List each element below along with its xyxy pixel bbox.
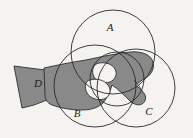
figure-container: A B C D bbox=[0, 0, 193, 138]
hand-venn-diagram: A B C D bbox=[0, 0, 193, 138]
label-b: B bbox=[74, 107, 81, 119]
label-c: C bbox=[145, 105, 153, 117]
label-a: A bbox=[106, 21, 114, 33]
label-d: D bbox=[33, 77, 42, 89]
